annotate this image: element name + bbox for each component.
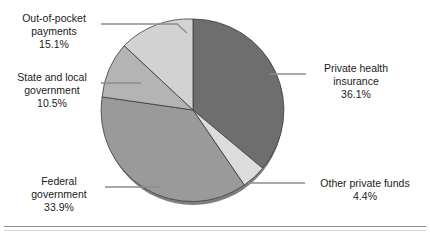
- label-private-health-insurance: Private health insurance 36.1%: [310, 62, 402, 101]
- label-out-of-pocket-line2: payments: [8, 25, 100, 38]
- label-out-of-pocket-line1: Out-of-pocket: [8, 12, 100, 25]
- footer-divider-secondary: [4, 230, 426, 231]
- label-state-local-percent: 10.5%: [4, 97, 100, 110]
- label-state-local-line2: government: [4, 84, 100, 97]
- label-out-of-pocket-payments: Out-of-pocket payments 15.1%: [8, 12, 100, 51]
- label-federal-line2: government: [14, 188, 104, 201]
- label-federal-percent: 33.9%: [14, 201, 104, 214]
- label-out-of-pocket-percent: 15.1%: [8, 38, 100, 51]
- footer-divider: [4, 226, 426, 227]
- label-private-health-line2: insurance: [310, 75, 402, 88]
- label-state-local-line1: State and local: [4, 71, 100, 84]
- label-other-private-line1: Other private funds: [309, 177, 421, 190]
- label-other-private-funds: Other private funds 4.4%: [309, 177, 421, 203]
- label-federal-line1: Federal: [14, 175, 104, 188]
- label-other-private-percent: 4.4%: [309, 190, 421, 203]
- label-state-and-local-government: State and local government 10.5%: [4, 71, 100, 110]
- label-federal-government: Federal government 33.9%: [14, 175, 104, 214]
- pie-chart-figure: Out-of-pocket payments 15.1% State and l…: [0, 0, 430, 238]
- label-private-health-percent: 36.1%: [310, 88, 402, 101]
- label-private-health-line1: Private health: [310, 62, 402, 75]
